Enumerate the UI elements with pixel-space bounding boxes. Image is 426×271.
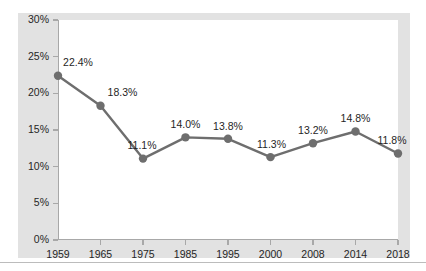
data-point-value-label: 11.8% <box>370 134 414 146</box>
data-point-marker[interactable] <box>394 149 402 157</box>
data-point-marker[interactable] <box>54 72 62 80</box>
data-point-marker[interactable] <box>96 102 104 110</box>
footer-divider <box>0 262 426 263</box>
data-point-marker[interactable] <box>351 127 359 135</box>
data-point-value-label: 13.2% <box>291 124 335 136</box>
data-point-value-label: 11.1% <box>120 139 164 151</box>
data-point-value-label: 14.8% <box>334 112 378 124</box>
data-point-value-label: 14.0% <box>164 118 208 130</box>
chart-figure: 30%25%20%15%10%5%0% 19591965197519851995… <box>18 13 410 258</box>
data-point-marker[interactable] <box>181 133 189 141</box>
line-series <box>18 13 410 258</box>
data-point-value-label: 11.3% <box>250 138 294 150</box>
data-point-value-label: 18.3% <box>101 86 145 98</box>
data-point-value-label: 13.8% <box>206 120 250 132</box>
page-canvas: 30%25%20%15%10%5%0% 19591965197519851995… <box>0 0 426 271</box>
data-point-value-label: 22.4% <box>56 56 100 68</box>
data-point-marker[interactable] <box>139 154 147 162</box>
data-point-marker[interactable] <box>224 135 232 143</box>
data-point-marker[interactable] <box>266 153 274 161</box>
data-point-marker[interactable] <box>309 139 317 147</box>
